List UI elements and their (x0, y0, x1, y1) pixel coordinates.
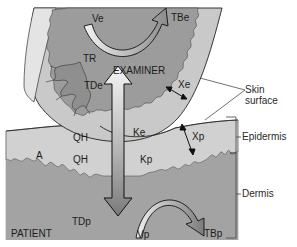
label-vp: Vp (137, 229, 150, 240)
label-xe: Xe (178, 79, 191, 90)
label-xp: Xp (192, 131, 205, 142)
skin-contact-diagram: Ve TBe TR EXAMINER TDe Xe Ke QH A QH Kp … (0, 0, 297, 247)
label-qh-top: QH (73, 132, 88, 143)
label-tr: TR (83, 53, 96, 64)
label-epidermis: Epidermis (242, 131, 286, 142)
label-qh-bottom: QH (73, 154, 88, 165)
label-kp: Kp (140, 154, 153, 165)
label-ve: Ve (92, 13, 104, 24)
label-tbe: TBe (171, 12, 190, 23)
label-ke: Ke (133, 127, 146, 138)
label-skin-surface-1: Skin (245, 84, 264, 95)
skin-surface-leaders (200, 78, 245, 120)
label-patient: PATIENT (11, 228, 52, 239)
label-tdp: TDp (72, 216, 91, 227)
label-tbp: TBp (204, 228, 223, 239)
label-skin-surface-2: surface (245, 95, 278, 106)
label-dermis: Dermis (242, 188, 274, 199)
label-a: A (36, 150, 43, 161)
label-tde: TDe (84, 80, 103, 91)
label-examiner: EXAMINER (113, 65, 165, 76)
